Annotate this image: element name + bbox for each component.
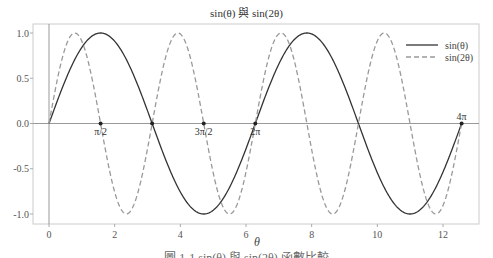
ticks-layer: 0246810121.00.50.0-0.5-1.0 (13, 28, 448, 241)
annotation-point (150, 122, 154, 126)
legend: sin(θ)sin(2θ) (406, 40, 473, 64)
x-tick-label: 8 (309, 229, 314, 240)
x-tick-label: 0 (47, 229, 52, 240)
x-axis-label: θ (254, 235, 260, 249)
annotation-label: 4π (457, 111, 467, 122)
legend-label-1: sin(θ) (445, 40, 468, 52)
y-tick-label: -1.0 (13, 209, 29, 220)
x-tick-label: 2 (112, 229, 117, 240)
x-tick-label: 12 (438, 229, 448, 240)
y-tick-label: -0.5 (13, 163, 29, 174)
annotation-label: 2π (250, 126, 260, 137)
y-tick-label: 0.5 (17, 73, 30, 84)
line-chart: π/23π/22π4π 0246810121.00.50.0-0.5-1.0 s… (0, 0, 493, 258)
x-tick-label: 4 (178, 229, 183, 240)
figure-caption: 圖 1-1 sin(θ) 與 sin(2θ) 函數比較 (0, 251, 493, 258)
x-tick-label: 6 (244, 229, 249, 240)
y-tick-label: 1.0 (17, 28, 30, 39)
y-tick-label: 0.0 (17, 118, 30, 129)
annotation-point (460, 122, 464, 126)
annotation-label: 3π/2 (195, 126, 213, 137)
annotation-label: π/2 (94, 126, 107, 137)
x-tick-label: 10 (372, 229, 382, 240)
legend-label-2: sin(2θ) (445, 52, 473, 64)
